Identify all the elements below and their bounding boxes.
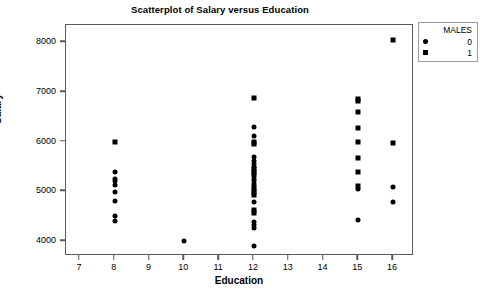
data-point bbox=[112, 219, 117, 224]
data-point bbox=[251, 243, 256, 248]
data-point bbox=[356, 184, 361, 189]
data-point bbox=[112, 183, 117, 188]
legend-title: MALES bbox=[422, 25, 474, 36]
x-tick-mark bbox=[183, 255, 185, 260]
x-tick-label: 10 bbox=[171, 262, 195, 272]
y-tick-mark bbox=[60, 239, 65, 241]
data-point bbox=[251, 95, 256, 100]
data-point bbox=[112, 169, 117, 174]
x-tick-label: 15 bbox=[345, 262, 369, 272]
y-tick-label: 8000 bbox=[22, 36, 56, 46]
y-axis-label: Salary bbox=[0, 94, 3, 124]
x-tick-label: 9 bbox=[137, 262, 161, 272]
data-point bbox=[251, 211, 256, 216]
data-point bbox=[356, 140, 361, 145]
x-tick-label: 12 bbox=[241, 262, 265, 272]
data-point bbox=[251, 141, 256, 146]
data-point bbox=[251, 125, 256, 130]
y-tick-mark bbox=[60, 190, 65, 192]
legend-entries: 01 bbox=[422, 36, 474, 58]
data-point bbox=[356, 218, 361, 223]
y-tick-label: 7000 bbox=[22, 86, 56, 96]
data-point bbox=[251, 226, 256, 231]
x-tick-mark bbox=[113, 255, 115, 260]
x-tick-label: 16 bbox=[380, 262, 404, 272]
y-tick-mark bbox=[60, 90, 65, 92]
y-tick-label: 4000 bbox=[22, 235, 56, 245]
x-tick-label: 8 bbox=[102, 262, 126, 272]
data-point bbox=[112, 190, 117, 195]
legend-item-label: 1 bbox=[467, 48, 474, 58]
x-tick-label: 7 bbox=[67, 262, 91, 272]
x-tick-mark bbox=[78, 255, 80, 260]
y-tick-label: 5000 bbox=[22, 185, 56, 195]
legend-item: 1 bbox=[422, 47, 474, 58]
data-point bbox=[391, 140, 396, 145]
square-marker-icon bbox=[423, 50, 428, 55]
x-tick-mark bbox=[252, 255, 254, 260]
chart-title: Scatterplot of Salary versus Education bbox=[0, 4, 440, 15]
x-tick-label: 14 bbox=[311, 262, 335, 272]
plot-area bbox=[65, 24, 413, 255]
data-point bbox=[356, 109, 361, 114]
x-tick-mark bbox=[148, 255, 150, 260]
data-point bbox=[182, 238, 187, 243]
data-point bbox=[356, 169, 361, 174]
data-point bbox=[391, 37, 396, 42]
y-tick-mark bbox=[60, 41, 65, 43]
circle-marker-icon bbox=[423, 39, 428, 44]
data-point bbox=[391, 185, 396, 190]
legend-item-label: 0 bbox=[467, 37, 474, 47]
x-tick-label: 11 bbox=[206, 262, 230, 272]
data-point bbox=[251, 199, 256, 204]
x-tick-mark bbox=[217, 255, 219, 260]
scatterplot-figure: Scatterplot of Salary versus Education 4… bbox=[0, 0, 480, 297]
x-axis-label: Education bbox=[65, 275, 413, 286]
data-point bbox=[251, 172, 256, 177]
data-point bbox=[356, 98, 361, 103]
data-point bbox=[112, 199, 117, 204]
x-tick-mark bbox=[391, 255, 393, 260]
data-point bbox=[356, 155, 361, 160]
y-tick-mark bbox=[60, 140, 65, 142]
x-tick-label: 13 bbox=[276, 262, 300, 272]
x-tick-mark bbox=[287, 255, 289, 260]
data-point bbox=[112, 139, 117, 144]
data-point bbox=[356, 125, 361, 130]
data-point bbox=[251, 192, 256, 197]
data-point bbox=[251, 134, 256, 139]
x-tick-mark bbox=[357, 255, 359, 260]
legend-item: 0 bbox=[422, 36, 474, 47]
x-tick-mark bbox=[322, 255, 324, 260]
legend: MALES 01 bbox=[418, 22, 478, 62]
data-point bbox=[391, 200, 396, 205]
y-tick-label: 6000 bbox=[22, 136, 56, 146]
